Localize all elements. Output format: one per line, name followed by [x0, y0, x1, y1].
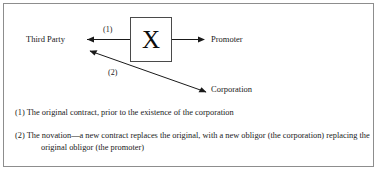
figure-notes: (1) The original contract, prior to the …	[4, 104, 375, 166]
diagram-arrows-svg	[4, 4, 375, 104]
crossed-out-contract-box: X	[130, 17, 172, 62]
node-label-corporation: Corporation	[211, 84, 252, 94]
node-label-promoter: Promoter	[211, 34, 243, 44]
arrow-1-head-right	[198, 37, 205, 43]
figure-frame: Third Party Promoter Corporation (1) (2)…	[3, 3, 374, 167]
note-line-1: (1) The original contract, prior to the …	[15, 107, 371, 119]
arrow-1-head-left	[87, 37, 94, 43]
arrow-number-1: (1)	[103, 25, 112, 34]
x-cancel-glyph: X	[142, 27, 160, 52]
diagram-area: Third Party Promoter Corporation (1) (2)…	[4, 4, 375, 104]
note-line-2: (2) The novation—a new contract replaces…	[15, 130, 381, 153]
node-label-third-party: Third Party	[26, 34, 65, 44]
arrow-number-2: (2)	[108, 68, 117, 77]
